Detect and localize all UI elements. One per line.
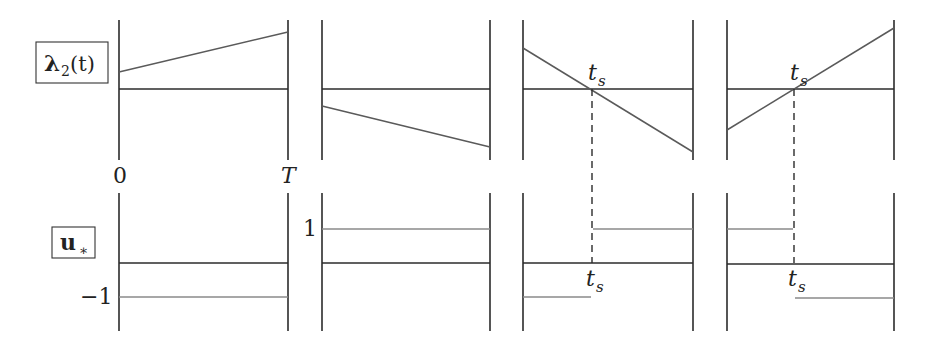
lambda-curve <box>523 48 693 152</box>
panel-2: 1 <box>303 20 490 331</box>
panel-1: 0 T −1 <box>80 20 298 331</box>
control-symbol: u <box>60 229 76 255</box>
lambda-argument: (t) <box>70 52 95 76</box>
svg-text:t: t <box>790 60 799 85</box>
minus-one-label: −1 <box>80 284 112 309</box>
time-T-label: T <box>281 163 298 188</box>
plus-one-label: 1 <box>303 216 317 241</box>
svg-text:s: s <box>598 72 606 90</box>
svg-text:t: t <box>586 266 595 291</box>
row-label-control: u ∗ <box>52 227 95 258</box>
svg-text:s: s <box>800 72 808 90</box>
lambda-symbol: λ <box>44 49 60 76</box>
bang-bang-diagram: λ 2 (t) u ∗ 0 T −1 1 <box>0 0 937 356</box>
row-label-lambda: λ 2 (t) <box>36 42 108 83</box>
lambda-subscript: 2 <box>61 63 70 79</box>
switch-time-label-bottom: t s <box>586 266 604 296</box>
lambda-curve <box>727 28 894 130</box>
switch-time-label-bottom: t s <box>788 266 806 296</box>
svg-text:t: t <box>788 266 797 291</box>
lambda-curve <box>119 32 288 72</box>
panel-4: t s t s <box>727 20 894 331</box>
control-subscript: ∗ <box>79 242 89 258</box>
time-zero-label: 0 <box>113 163 127 188</box>
svg-text:t: t <box>588 60 597 85</box>
svg-text:s: s <box>798 278 806 296</box>
switch-time-label-top: t s <box>588 60 606 90</box>
svg-text:s: s <box>596 278 604 296</box>
lambda-curve <box>322 106 490 147</box>
panel-3: t s t s <box>523 20 693 331</box>
